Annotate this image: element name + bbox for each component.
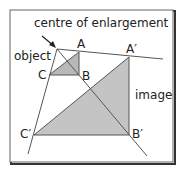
- enlargement-diagram: centre of enlargement object image A B C…: [0, 0, 181, 174]
- frame: [10, 10, 173, 162]
- label-a: A: [77, 38, 85, 50]
- label-b-prime: B′: [132, 128, 143, 140]
- image-label: image: [135, 89, 172, 101]
- object-label: object: [14, 50, 51, 62]
- label-a-prime: A′: [126, 43, 137, 55]
- label-c-prime: C′: [20, 128, 31, 140]
- label-c: C: [38, 69, 46, 81]
- label-b: B: [82, 70, 90, 82]
- centre-label: centre of enlargement: [34, 17, 168, 29]
